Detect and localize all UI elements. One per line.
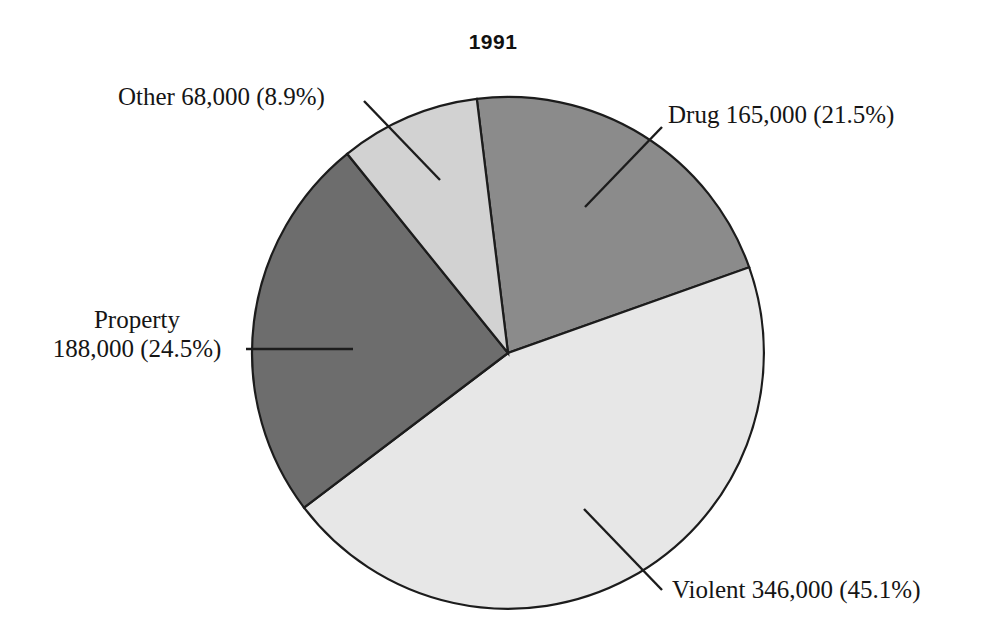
slice-label-property-line1: Property — [28, 305, 246, 334]
slice-label-violent: Violent 346,000 (45.1%) — [672, 575, 920, 604]
slice-label-drug: Drug 165,000 (21.5%) — [668, 100, 894, 129]
pie-chart-figure: 1991 Other 68,000 (8.9%) Drug 165,000 (2… — [0, 0, 986, 642]
slice-label-property-line2: 188,000 (24.5%) — [28, 334, 246, 363]
slice-label-property: Property 188,000 (24.5%) — [28, 305, 246, 363]
slice-label-other: Other 68,000 (8.9%) — [118, 82, 325, 111]
